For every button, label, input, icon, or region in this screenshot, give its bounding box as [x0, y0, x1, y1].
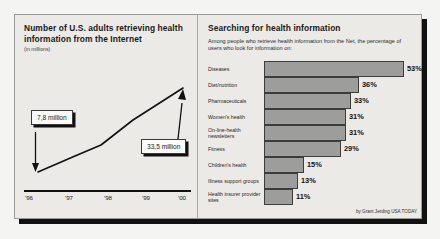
- bar-fill: [264, 61, 404, 77]
- x-tick-1999: '99: [142, 194, 150, 201]
- bar-track: 11%: [264, 189, 413, 205]
- bar-fill: [264, 77, 359, 93]
- bar-row: Fitness29%: [208, 141, 413, 157]
- bar-value-label: 31%: [349, 128, 364, 137]
- bar-chart: Diseases53%Diet/nutrition36%Pharmaceutic…: [208, 61, 413, 205]
- bar-row: Pharmaceuticals33%: [208, 93, 413, 109]
- bar-track: 33%: [264, 93, 413, 109]
- bar-track: 53%: [264, 61, 413, 77]
- bar-category-label: Pharmaceuticals: [208, 98, 264, 104]
- right-panel: Searching for health information Among p…: [198, 15, 423, 218]
- bar-track: 29%: [264, 141, 413, 157]
- infographic-root: Number of U.S. adults retrieving health …: [0, 0, 440, 239]
- bar-row: Children's health15%: [208, 157, 413, 173]
- bar-row: Illness support groups13%: [208, 173, 413, 189]
- bar-row: Diseases53%: [208, 61, 413, 77]
- right-panel-title: Searching for health information: [208, 23, 413, 34]
- x-tick-1996: '96: [25, 194, 33, 201]
- bar-fill: [264, 173, 298, 189]
- bar-category-label: Diseases: [208, 66, 264, 72]
- bar-track: 31%: [264, 109, 413, 125]
- infographic-frame: Number of U.S. adults retrieving health …: [14, 14, 422, 219]
- bar-track: 15%: [264, 157, 413, 173]
- bar-fill: [264, 157, 304, 173]
- bar-category-label: Diet/nutrition: [208, 82, 264, 88]
- bar-track: 13%: [264, 173, 413, 189]
- bar-value-label: 15%: [307, 160, 322, 169]
- bar-fill: [264, 141, 341, 157]
- bar-track: 31%: [264, 125, 413, 141]
- x-tick-2000: '00: [178, 194, 186, 201]
- callout-start: 7,8 million: [31, 110, 73, 125]
- callout-start-arrow-head: [32, 163, 39, 172]
- bar-category-label: Women's health: [208, 114, 264, 120]
- bar-value-label: 29%: [344, 144, 359, 153]
- trend-line: [38, 88, 183, 172]
- bar-fill: [264, 93, 351, 109]
- bar-fill: [264, 125, 346, 141]
- bar-value-label: 11%: [296, 192, 310, 201]
- right-panel-heading: Searching for health information Among p…: [208, 23, 413, 52]
- left-panel: Number of U.S. adults retrieving health …: [15, 15, 197, 218]
- x-tick-1997: '97: [65, 194, 73, 201]
- bar-fill: [264, 109, 346, 125]
- bar-row: Diet/nutrition36%: [208, 77, 413, 93]
- bar-row: On-line-health newsletters31%: [208, 125, 413, 141]
- bar-value-label: 13%: [301, 176, 316, 185]
- right-panel-lede: Among people who retrieve health informa…: [208, 38, 413, 53]
- bar-row: Health insurer provider sites11%: [208, 189, 413, 205]
- bar-category-label: On-line-health newsletters: [208, 127, 264, 139]
- bar-category-label: Fitness: [208, 146, 264, 152]
- bar-category-label: Illness support groups: [208, 178, 264, 184]
- line-chart: 7,8 million 33,5 million '96 '97 '98 '99…: [15, 15, 197, 220]
- bar-category-label: Health insurer provider sites: [208, 191, 264, 203]
- bar-value-label: 31%: [349, 112, 364, 121]
- bar-value-label: 33%: [354, 96, 369, 105]
- callout-end-arrow-shaft: [178, 103, 182, 139]
- credit-line: by Grant Jerding USA TODAY: [356, 209, 417, 214]
- x-tick-1998: '98: [104, 194, 112, 201]
- bar-track: 36%: [264, 77, 413, 93]
- callout-end: 33,5 million: [141, 139, 186, 154]
- bar-value-label: 36%: [362, 80, 377, 89]
- bar-category-label: Children's health: [208, 162, 264, 168]
- bar-row: Women's health31%: [208, 109, 413, 125]
- bar-value-label: 53%: [407, 64, 422, 73]
- bar-fill: [264, 189, 293, 205]
